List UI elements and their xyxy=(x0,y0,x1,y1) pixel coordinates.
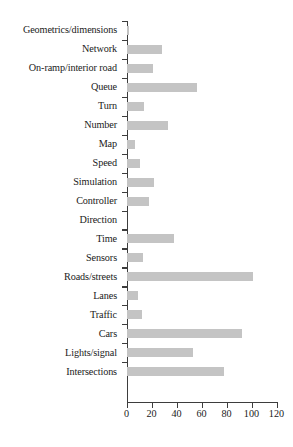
bar-row xyxy=(127,324,277,343)
bar-row xyxy=(127,248,277,267)
bar-row xyxy=(127,192,277,211)
bar xyxy=(127,159,141,168)
bar-rows xyxy=(127,21,277,381)
category-label: Network xyxy=(0,40,122,59)
category-label: Cars xyxy=(0,324,122,343)
category-label: Turn xyxy=(0,97,122,116)
category-label: Time xyxy=(0,229,122,248)
x-axis-tick xyxy=(252,402,253,408)
category-label: Traffic xyxy=(0,305,122,324)
x-axis-tick-labels: 020406080100120 xyxy=(127,409,277,425)
category-axis-labels: Geometrics/dimensionsNetworkOn-ramp/inte… xyxy=(0,21,122,381)
horizontal-bar-chart: Geometrics/dimensionsNetworkOn-ramp/inte… xyxy=(0,0,293,447)
x-axis-tick xyxy=(227,402,228,408)
category-label: Lanes xyxy=(0,286,122,305)
bar xyxy=(127,26,130,35)
bar-row xyxy=(127,135,277,154)
x-axis-tick-label: 40 xyxy=(171,409,181,419)
bar-row xyxy=(127,362,277,381)
category-label: Intersections xyxy=(0,362,122,381)
category-label: Roads/streets xyxy=(0,267,122,286)
category-label: Simulation xyxy=(0,173,122,192)
category-label: Number xyxy=(0,116,122,135)
bar xyxy=(127,83,197,92)
bar xyxy=(127,64,153,73)
x-axis-tick-label: 0 xyxy=(124,409,129,419)
bar-row xyxy=(127,286,277,305)
bar xyxy=(127,291,138,300)
bar xyxy=(127,348,193,357)
bar-row xyxy=(127,59,277,78)
bar-row xyxy=(127,229,277,248)
category-label: Geometrics/dimensions xyxy=(0,21,122,40)
category-label: Map xyxy=(0,135,122,154)
bar-row xyxy=(127,116,277,135)
bar-row xyxy=(127,267,277,286)
bar xyxy=(127,178,155,187)
bar-row xyxy=(127,97,277,116)
bar-row xyxy=(127,343,277,362)
bar xyxy=(127,121,168,130)
bar xyxy=(127,310,142,319)
bar-row xyxy=(127,305,277,324)
category-label: Direction xyxy=(0,211,122,230)
x-axis-tick xyxy=(127,402,128,408)
bar xyxy=(127,329,242,338)
plot-area xyxy=(127,21,277,402)
bar xyxy=(127,234,175,243)
bar xyxy=(127,102,145,111)
x-axis-tick-label: 20 xyxy=(146,409,156,419)
category-label: Queue xyxy=(0,78,122,97)
category-label: Speed xyxy=(0,154,122,173)
x-axis-tick xyxy=(177,402,178,408)
category-label: Lights/signal xyxy=(0,343,122,362)
category-label: On-ramp/interior road xyxy=(0,59,122,78)
x-axis-tick xyxy=(202,402,203,408)
bar-row xyxy=(127,173,277,192)
bar xyxy=(127,197,150,206)
x-axis-tick-label: 60 xyxy=(196,409,206,419)
bar xyxy=(127,253,143,262)
x-axis-tick-label: 120 xyxy=(269,409,284,419)
x-axis-tick xyxy=(152,402,153,408)
bar xyxy=(127,140,136,149)
bar-row xyxy=(127,154,277,173)
bar xyxy=(127,45,162,54)
category-label: Sensors xyxy=(0,248,122,267)
x-axis-tick-label: 80 xyxy=(221,409,231,419)
x-axis-tick xyxy=(277,402,278,408)
x-axis-tick-label: 100 xyxy=(244,409,259,419)
bar-row xyxy=(127,78,277,97)
bar-row xyxy=(127,211,277,230)
bar xyxy=(127,367,225,376)
bar-row xyxy=(127,40,277,59)
bar-row xyxy=(127,21,277,40)
bar xyxy=(127,272,253,281)
category-label: Controller xyxy=(0,192,122,211)
